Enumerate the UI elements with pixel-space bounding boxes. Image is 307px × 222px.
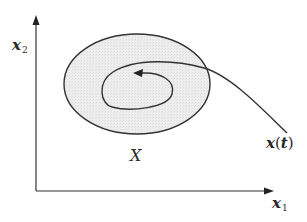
- x-axis-label: x1: [272, 196, 288, 213]
- y-axis-label-var: x: [12, 36, 21, 54]
- region-label: X: [130, 148, 141, 164]
- y-axis-label-subscript: 2: [22, 45, 28, 55]
- y-axis-label: x2: [12, 38, 28, 55]
- x-axis-label-subscript: 1: [282, 203, 288, 213]
- trajectory-label-close-paren: ): [288, 134, 294, 152]
- diagram-canvas: [0, 0, 307, 222]
- trajectory-label-arg: t: [281, 134, 288, 152]
- trajectory-label-var: x: [266, 134, 275, 152]
- y-axis-arrow-icon: [33, 15, 40, 25]
- trajectory-label: x(t): [266, 136, 294, 151]
- region-x-ellipse: [64, 34, 210, 134]
- x-axis-label-var: x: [272, 194, 281, 212]
